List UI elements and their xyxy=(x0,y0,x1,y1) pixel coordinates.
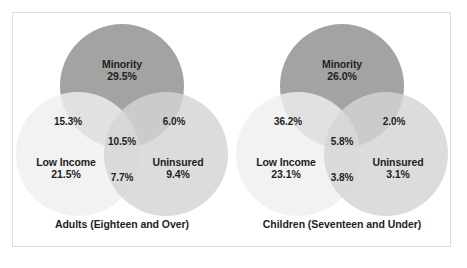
uninsured-name-adults: Uninsured xyxy=(132,156,224,168)
label-minority-adults: Minority 29.5% xyxy=(74,58,170,83)
minority-name-children: Minority xyxy=(294,58,390,70)
circle-uninsured-adults xyxy=(104,92,228,216)
venn-diagram-adults: Minority 29.5% Low Income 21.5% Uninsure… xyxy=(12,18,232,216)
caption-children: Children (Seventeen and Under) xyxy=(232,218,452,230)
label-all-three-children: 5.8% xyxy=(314,136,370,148)
caption-adults: Adults (Eighteen and Over) xyxy=(12,218,232,230)
label-minority-uninsured-children: 2.0% xyxy=(366,116,422,128)
label-minority-uninsured-adults: 6.0% xyxy=(146,116,202,128)
venn-panel-children: Minority 26.0% Low Income 23.1% Uninsure… xyxy=(232,12,452,247)
all-three-value-adults: 10.5% xyxy=(94,136,150,148)
low-income-name-adults: Low Income xyxy=(20,156,112,168)
minority-low-income-value-children: 36.2% xyxy=(260,116,316,128)
minority-uninsured-value-children: 2.0% xyxy=(366,116,422,128)
minority-name-adults: Minority xyxy=(74,58,170,70)
venn-diagram-children: Minority 26.0% Low Income 23.1% Uninsure… xyxy=(232,18,452,216)
label-minority-low-income-children: 36.2% xyxy=(260,116,316,128)
circle-uninsured-children xyxy=(324,92,448,216)
minority-value-adults: 29.5% xyxy=(74,70,170,82)
venn-figure: Minority 29.5% Low Income 21.5% Uninsure… xyxy=(0,0,467,268)
minority-uninsured-value-adults: 6.0% xyxy=(146,116,202,128)
label-minority-children: Minority 26.0% xyxy=(294,58,390,83)
uninsured-name-children: Uninsured xyxy=(352,156,444,168)
all-three-value-children: 5.8% xyxy=(314,136,370,148)
label-all-three-adults: 10.5% xyxy=(94,136,150,148)
low-income-uninsured-value-children: 3.8% xyxy=(314,172,370,184)
low-income-name-children: Low Income xyxy=(240,156,332,168)
label-minority-low-income-adults: 15.3% xyxy=(40,116,96,128)
minority-low-income-value-adults: 15.3% xyxy=(40,116,96,128)
label-low-income-uninsured-adults: 7.7% xyxy=(94,172,150,184)
venn-panel-adults: Minority 29.5% Low Income 21.5% Uninsure… xyxy=(12,12,232,247)
low-income-uninsured-value-adults: 7.7% xyxy=(94,172,150,184)
minority-value-children: 26.0% xyxy=(294,70,390,82)
label-low-income-uninsured-children: 3.8% xyxy=(314,172,370,184)
